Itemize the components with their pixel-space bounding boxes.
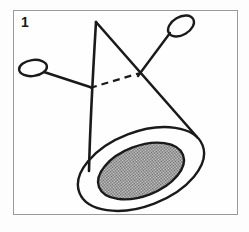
cone-inner-shaded-ellipse [90,132,192,211]
cone-right-edge [96,22,197,137]
right-wire-loop-icon [164,11,197,41]
left-wire-loop-icon [18,58,48,78]
cone-left-edge [89,22,96,171]
left-wire-tail [44,72,90,87]
hidden-dashed-line [90,73,140,88]
cone-diagram-lineart [0,0,249,232]
right-wire-tail [138,33,170,76]
figure-panel: 1 [0,0,249,232]
